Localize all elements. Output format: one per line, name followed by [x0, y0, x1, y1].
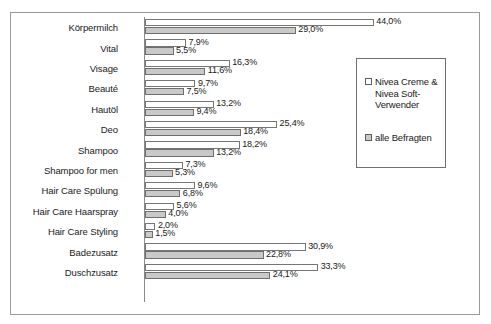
category-label: Hair Care Haarspray [33, 205, 118, 216]
bar-group: 5,6%4,0% [145, 201, 479, 221]
category-label: Hautöl [91, 103, 118, 114]
category-label: Körpermilch [68, 22, 118, 33]
bar-value-label: 25,4% [280, 118, 305, 128]
bar-series-1 [145, 272, 270, 279]
category-label: Deo [101, 124, 118, 135]
bar-group: 9,6%6,8% [145, 180, 479, 200]
category-label: Shampoo for men [44, 164, 118, 175]
bar-series-1 [145, 190, 180, 197]
bar-group: 2,0%1,5% [145, 221, 479, 241]
bar-group: 33,3%24,1% [145, 262, 479, 282]
bar-value-label: 1,5% [155, 228, 175, 238]
bar-value-label: 30,9% [308, 241, 333, 251]
bar-row: Hair Care Styling2,0%1,5% [11, 221, 479, 241]
legend-swatch-icon-series-1 [365, 134, 372, 141]
bar-value-label: 5,5% [176, 45, 196, 55]
bar-series-1 [145, 68, 205, 75]
bar-value-label: 16,3% [232, 57, 257, 67]
bar-row: Hair Care Spülung9,6%6,8% [11, 180, 479, 200]
category-label: Badezusatz [69, 246, 118, 257]
bar-series-1 [145, 231, 153, 238]
category-label: Visage [90, 62, 118, 73]
bar-row: Vital7,9%5,5% [11, 37, 479, 57]
bar-row: Badezusatz30,9%22,8% [11, 241, 479, 261]
chart-legend: Nivea Creme & Nivea Soft-Verwender alle … [356, 58, 446, 168]
bar-group: 7,9%5,5% [145, 37, 479, 57]
category-label: Duschzusatz [65, 266, 118, 277]
bar-value-label: 6,8% [183, 188, 203, 198]
bar-value-label: 24,1% [273, 269, 298, 279]
bar-row: Duschzusatz33,3%24,1% [11, 262, 479, 282]
bar-value-label: 29,0% [298, 24, 323, 34]
bar-value-label: 22,8% [266, 249, 291, 259]
bar-row: Hair Care Haarspray5,6%4,0% [11, 201, 479, 221]
legend-label-series-0: Nivea Creme & Nivea Soft-Verwender [375, 76, 440, 111]
bar-value-label: 18,4% [243, 126, 268, 136]
category-label: Hair Care Spülung [42, 185, 118, 196]
bar-value-label: 44,0% [376, 16, 401, 26]
bar-value-label: 7,5% [187, 86, 207, 96]
category-label: Vital [100, 42, 118, 53]
bar-series-1 [145, 47, 174, 54]
legend-label-series-1: alle Befragten [375, 132, 432, 144]
legend-entry-alle-befragten: alle Befragten [365, 132, 440, 144]
bar-series-0 [145, 223, 155, 230]
legend-entry-nivea-verwender: Nivea Creme & Nivea Soft-Verwender [365, 76, 440, 111]
bar-series-1 [145, 211, 166, 218]
bar-series-1 [145, 109, 194, 116]
bar-value-label: 33,3% [321, 261, 346, 271]
bar-value-label: 13,2% [216, 98, 241, 108]
bar-row: Körpermilch44,0%29,0% [11, 17, 479, 37]
bar-series-1 [145, 129, 241, 136]
bar-value-label: 13,2% [216, 147, 241, 157]
bar-group: 44,0%29,0% [145, 17, 479, 37]
bar-series-1 [145, 149, 214, 156]
chart-frame: Körpermilch44,0%29,0%Vital7,9%5,5%Visage… [10, 12, 480, 315]
bar-series-1 [145, 170, 173, 177]
bar-series-1 [145, 88, 184, 95]
bar-value-label: 9,4% [196, 106, 216, 116]
category-label: Beauté [88, 83, 118, 94]
bar-value-label: 11,6% [208, 65, 232, 75]
bar-group: 30,9%22,8% [145, 241, 479, 261]
category-label: Shampoo [78, 144, 118, 155]
bar-series-0 [145, 19, 374, 26]
category-label: Hair Care Styling [48, 226, 118, 237]
bar-series-1 [145, 251, 264, 258]
bar-value-label: 5,3% [175, 167, 195, 177]
legend-swatch-icon-series-0 [365, 78, 372, 85]
bar-value-label: 4,0% [168, 208, 188, 218]
bar-series-1 [145, 27, 296, 34]
bar-value-label: 18,2% [242, 139, 267, 149]
